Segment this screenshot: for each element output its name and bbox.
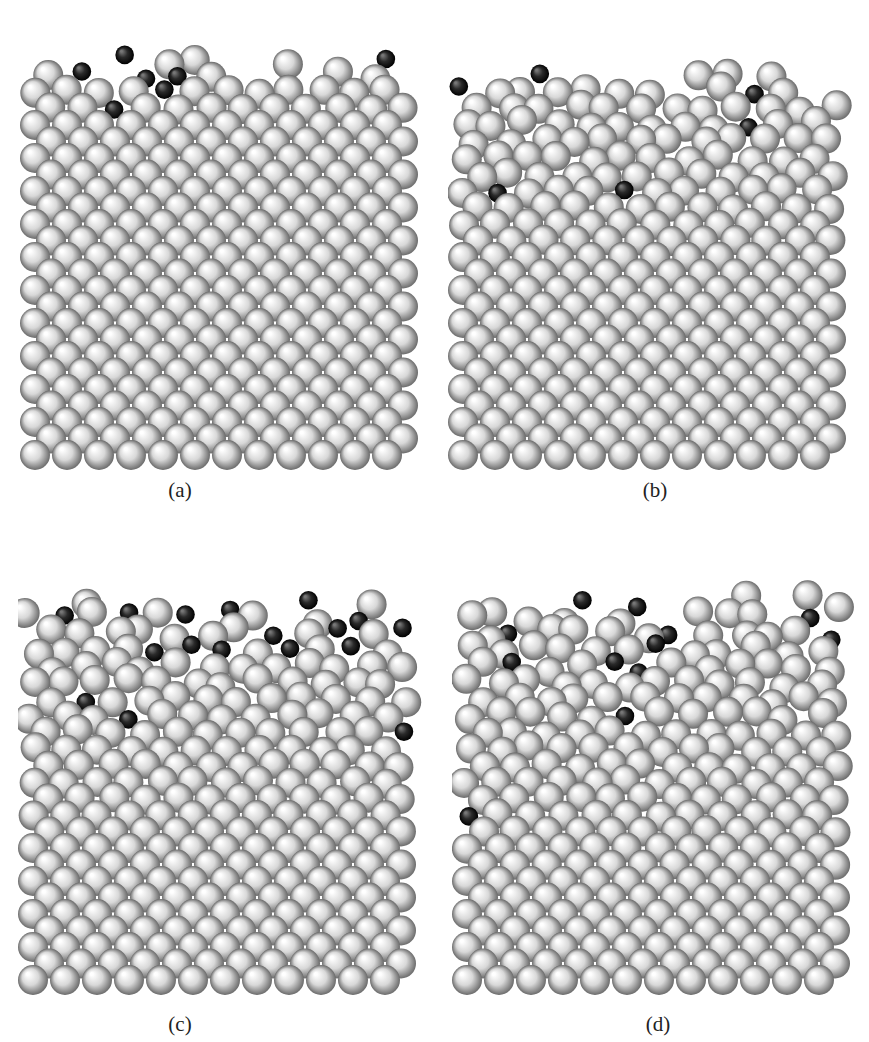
panel-label-b: (b)	[625, 478, 685, 503]
panel-d-atom-snapshot	[452, 560, 857, 995]
atom-render-a	[20, 10, 425, 470]
panel-b-atom-snapshot	[448, 10, 858, 470]
atom-render-b	[448, 10, 858, 470]
panel-label-a: (a)	[150, 478, 210, 503]
atom-render-c	[18, 560, 423, 995]
panel-label-c: (c)	[150, 1012, 210, 1037]
panel-c-atom-snapshot	[18, 560, 423, 995]
atom-render-d	[452, 560, 857, 995]
panel-label-d: (d)	[628, 1012, 688, 1037]
panel-a-atom-snapshot	[20, 10, 425, 470]
